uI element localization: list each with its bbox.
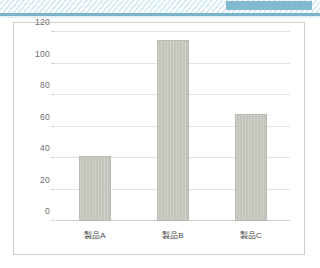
x-axis-category-label: 製品B — [162, 229, 183, 240]
y-tick-mark-120 — [51, 31, 55, 32]
y-tick-mark-0 — [51, 220, 55, 221]
y-tick-mark-80 — [51, 94, 55, 95]
bar-1 — [79, 156, 112, 221]
plot-area: 020406080100120製品A製品B製品C — [56, 32, 290, 221]
y-tick-mark-40 — [51, 157, 55, 158]
x-axis-category-label: 製品A — [84, 229, 105, 240]
y-axis-tick-label: 100 — [35, 49, 50, 59]
bar-2 — [157, 40, 190, 221]
header-accent-block — [226, 1, 312, 10]
y-tick-mark-20 — [51, 189, 55, 190]
plot-wrapper: 020406080100120製品A製品B製品C — [14, 23, 304, 254]
gridline-120 — [56, 31, 290, 32]
y-axis-tick-label: 80 — [40, 80, 50, 90]
header-stripe-band — [0, 0, 320, 13]
y-axis-tick-label: 40 — [40, 143, 50, 153]
y-axis-tick-label: 20 — [40, 175, 50, 185]
x-axis-category-label: 製品C — [240, 229, 262, 240]
y-tick-mark-100 — [51, 63, 55, 64]
bar-3 — [235, 114, 268, 221]
y-axis-tick-label: 60 — [40, 112, 50, 122]
y-axis-tick-label: 0 — [45, 206, 50, 216]
chart-panel: 020406080100120製品A製品B製品C — [13, 22, 305, 255]
y-tick-mark-60 — [51, 126, 55, 127]
y-axis-tick-label: 120 — [35, 17, 50, 27]
